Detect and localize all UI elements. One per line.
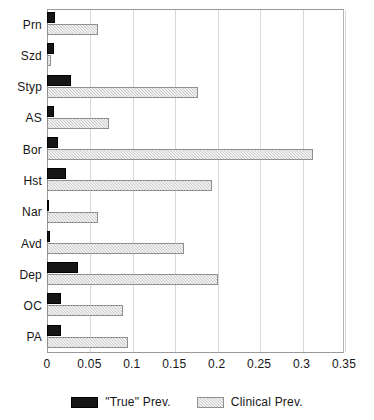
- bar-clinical-prev-oc: [47, 305, 123, 316]
- bar-group-as: [47, 103, 344, 134]
- y-tick-label-prn: Prn: [0, 19, 42, 31]
- y-tick-label-styp: Styp: [0, 81, 42, 93]
- bar-group-prn: [47, 9, 344, 40]
- x-axis-tick-labels: 00.050.10.150.20.250.30.35: [0, 357, 374, 373]
- y-tick-label-dep: Dep: [0, 269, 42, 281]
- bar-clinical-prev-nar: [47, 212, 98, 223]
- bar-clinical-prev-avd: [47, 243, 184, 254]
- bar-group-pa: [47, 322, 344, 353]
- bar-clinical-prev-hst: [47, 180, 212, 191]
- bar-true-prev-as: [47, 106, 54, 117]
- bar-true-prev-pa: [47, 325, 61, 336]
- bar-clinical-prev-dep: [47, 274, 218, 285]
- chart-legend: "True" Prev. Clinical Prev.: [0, 392, 374, 412]
- y-tick-label-as: AS: [0, 112, 42, 124]
- x-tick-label: 0.2: [208, 357, 225, 371]
- y-tick-label-hst: Hst: [0, 175, 42, 187]
- gridline: [345, 10, 346, 352]
- legend-swatch-true-prev: [71, 397, 98, 408]
- x-tick-label: 0.15: [162, 357, 186, 371]
- bar-group-szd: [47, 40, 344, 71]
- bar-group-hst: [47, 165, 344, 196]
- bar-true-prev-styp: [47, 75, 71, 86]
- x-tick-label: 0.05: [77, 357, 101, 371]
- x-tick-label: 0.1: [123, 357, 140, 371]
- bar-group-nar: [47, 197, 344, 228]
- bar-group-oc: [47, 290, 344, 321]
- bar-clinical-prev-bor: [47, 149, 313, 160]
- y-tick-label-oc: OC: [0, 300, 42, 312]
- y-tick-label-avd: Avd: [0, 238, 42, 250]
- bar-true-prev-dep: [47, 262, 78, 273]
- bar-group-avd: [47, 228, 344, 259]
- bar-true-prev-bor: [47, 137, 58, 148]
- bar-clinical-prev-as: [47, 118, 109, 129]
- legend-label-true-prev: "True" Prev.: [105, 396, 171, 409]
- y-tick-label-szd: Szd: [0, 50, 42, 62]
- x-tick-label: 0.3: [293, 357, 310, 371]
- x-tick-label: 0.35: [332, 357, 356, 371]
- x-tick-label: 0.25: [247, 357, 271, 371]
- bar-true-prev-avd: [47, 231, 50, 242]
- bar-group-bor: [47, 134, 344, 165]
- bar-true-prev-hst: [47, 168, 66, 179]
- legend-item-true-prev: "True" Prev.: [71, 396, 171, 409]
- bar-clinical-prev-pa: [47, 337, 128, 348]
- bar-clinical-prev-szd: [47, 55, 51, 66]
- x-tick-label: 0: [44, 357, 51, 371]
- legend-swatch-clinical-prev: [197, 397, 224, 408]
- legend-label-clinical-prev: Clinical Prev.: [231, 396, 303, 409]
- legend-item-clinical-prev: Clinical Prev.: [197, 396, 303, 409]
- bar-group-styp: [47, 72, 344, 103]
- bar-true-prev-prn: [47, 12, 55, 23]
- bar-group-dep: [47, 259, 344, 290]
- bars-layer: [47, 9, 344, 353]
- bar-clinical-prev-styp: [47, 87, 198, 98]
- prevalence-bar-chart: PrnSzdStypASBorHstNarAvdDepOCPA 00.050.1…: [0, 0, 374, 420]
- y-tick-label-bor: Bor: [0, 144, 42, 156]
- y-tick-label-nar: Nar: [0, 206, 42, 218]
- bar-true-prev-szd: [47, 43, 54, 54]
- y-axis-category-labels: PrnSzdStypASBorHstNarAvdDepOCPA: [0, 9, 42, 353]
- bar-true-prev-nar: [47, 200, 49, 211]
- y-tick-label-pa: PA: [0, 331, 42, 343]
- bar-true-prev-oc: [47, 293, 61, 304]
- bar-clinical-prev-prn: [47, 24, 98, 35]
